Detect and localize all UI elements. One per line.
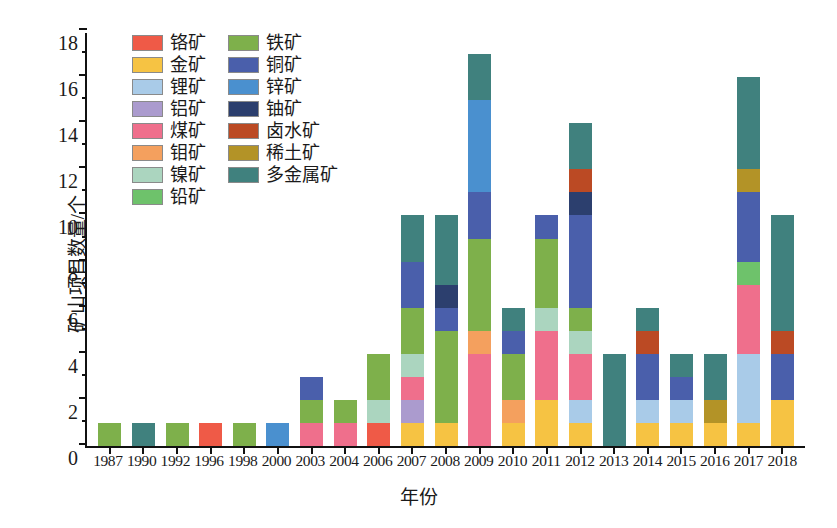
bar-slot bbox=[665, 33, 699, 446]
bar-segment bbox=[569, 169, 592, 192]
bar-segment bbox=[704, 400, 727, 423]
stacked-bar[interactable] bbox=[670, 354, 693, 446]
bar-segment bbox=[468, 54, 491, 100]
bar-segment bbox=[737, 285, 760, 354]
bar-segment bbox=[468, 100, 491, 192]
stacked-bar[interactable] bbox=[636, 308, 659, 446]
stacked-bar[interactable] bbox=[737, 77, 760, 446]
legend-item[interactable]: 铬矿 bbox=[132, 33, 206, 52]
legend-swatch-icon bbox=[228, 123, 259, 139]
bar-segment bbox=[502, 354, 525, 400]
stacked-bar[interactable] bbox=[266, 423, 289, 446]
y-tick-major bbox=[79, 212, 87, 214]
bar-segment bbox=[636, 331, 659, 354]
stacked-bar[interactable] bbox=[569, 123, 592, 446]
legend-label: 铜矿 bbox=[266, 56, 302, 74]
legend-label: 卤水矿 bbox=[266, 122, 320, 140]
bar-segment bbox=[569, 331, 592, 354]
legend-label: 镍矿 bbox=[170, 166, 206, 184]
stacked-bar[interactable] bbox=[603, 354, 626, 446]
bar-segment bbox=[367, 400, 390, 423]
legend-swatch-icon bbox=[228, 167, 259, 183]
bar-slot bbox=[766, 33, 800, 446]
legend-item[interactable]: 钼矿 bbox=[132, 143, 206, 162]
stacked-bar[interactable] bbox=[98, 423, 121, 446]
stacked-bar[interactable] bbox=[300, 377, 323, 446]
y-tick-major bbox=[79, 351, 87, 353]
bar-segment bbox=[737, 169, 760, 192]
stacked-bar[interactable] bbox=[367, 354, 390, 446]
legend-item[interactable]: 煤矿 bbox=[132, 121, 206, 140]
x-tick-label: 2015 bbox=[664, 452, 698, 470]
bar-segment bbox=[636, 308, 659, 331]
bar-segment bbox=[771, 215, 794, 330]
bar-segment bbox=[535, 400, 558, 446]
legend-label: 稀土矿 bbox=[266, 144, 320, 162]
legend-swatch-icon bbox=[228, 57, 259, 73]
stacked-bar[interactable] bbox=[502, 308, 525, 446]
bar-segment bbox=[132, 423, 155, 446]
stacked-bar[interactable] bbox=[535, 215, 558, 446]
bar-segment bbox=[435, 331, 458, 423]
bar-segment bbox=[670, 423, 693, 446]
bar-slot bbox=[564, 33, 598, 446]
legend-swatch-icon bbox=[132, 57, 163, 73]
bar-segment bbox=[670, 400, 693, 423]
stacked-bar[interactable] bbox=[233, 423, 256, 446]
bar-segment bbox=[569, 423, 592, 446]
bar-segment bbox=[670, 354, 693, 377]
bar-segment bbox=[435, 308, 458, 331]
x-tick-label: 2012 bbox=[563, 452, 597, 470]
stacked-bar[interactable] bbox=[199, 423, 222, 446]
stacked-bar[interactable] bbox=[132, 423, 155, 446]
bar-segment bbox=[401, 308, 424, 354]
y-tick-major bbox=[79, 305, 87, 307]
bar-segment bbox=[435, 285, 458, 308]
x-tick-label: 2018 bbox=[765, 452, 799, 470]
legend-item[interactable]: 铜矿 bbox=[228, 55, 338, 74]
stacked-bar[interactable] bbox=[435, 215, 458, 446]
stacked-bar[interactable] bbox=[704, 354, 727, 446]
legend-item[interactable]: 锌矿 bbox=[228, 77, 338, 96]
bar-segment bbox=[502, 308, 525, 331]
bar-segment bbox=[401, 354, 424, 377]
stacked-bar[interactable] bbox=[771, 215, 794, 446]
legend-item[interactable]: 多金属矿 bbox=[228, 165, 338, 184]
x-tick-label: 2013 bbox=[597, 452, 631, 470]
legend-label: 多金属矿 bbox=[266, 166, 338, 184]
stacked-bar[interactable] bbox=[401, 215, 424, 446]
legend-item[interactable]: 铅矿 bbox=[132, 187, 206, 206]
legend-item[interactable]: 稀土矿 bbox=[228, 143, 338, 162]
legend-item[interactable]: 锂矿 bbox=[132, 77, 206, 96]
stacked-bar[interactable] bbox=[468, 54, 491, 446]
bar-segment bbox=[603, 354, 626, 446]
bar-segment bbox=[636, 354, 659, 400]
legend-item[interactable]: 卤水矿 bbox=[228, 121, 338, 140]
y-tick-major bbox=[79, 166, 87, 168]
bar-segment bbox=[334, 400, 357, 423]
bar-segment bbox=[771, 331, 794, 354]
legend-item[interactable]: 镍矿 bbox=[132, 165, 206, 184]
legend: 铬矿金矿锂矿铝矿煤矿钼矿镍矿铅矿 铁矿铜矿锌矿铀矿卤水矿稀土矿多金属矿 bbox=[132, 33, 338, 206]
stacked-bar[interactable] bbox=[334, 400, 357, 446]
legend-item[interactable]: 铁矿 bbox=[228, 33, 338, 52]
legend-item[interactable]: 金矿 bbox=[132, 55, 206, 74]
legend-item[interactable]: 铀矿 bbox=[228, 99, 338, 118]
legend-swatch-icon bbox=[228, 79, 259, 95]
bar-segment bbox=[166, 423, 189, 446]
x-axis-labels: 1987199019921996199820002003200420062007… bbox=[85, 452, 805, 470]
bar-slot bbox=[530, 33, 564, 446]
stacked-bar[interactable] bbox=[166, 423, 189, 446]
legend-swatch-icon bbox=[228, 35, 259, 51]
legend-item[interactable]: 铝矿 bbox=[132, 99, 206, 118]
bar-segment bbox=[737, 262, 760, 285]
bar-segment bbox=[401, 423, 424, 446]
bar-segment bbox=[300, 423, 323, 446]
bar-segment bbox=[468, 331, 491, 354]
legend-label: 锂矿 bbox=[170, 78, 206, 96]
bar-segment bbox=[535, 215, 558, 238]
bar-slot bbox=[497, 33, 531, 446]
bar-slot bbox=[732, 33, 766, 446]
bar-segment bbox=[569, 354, 592, 400]
bar-segment bbox=[334, 423, 357, 446]
